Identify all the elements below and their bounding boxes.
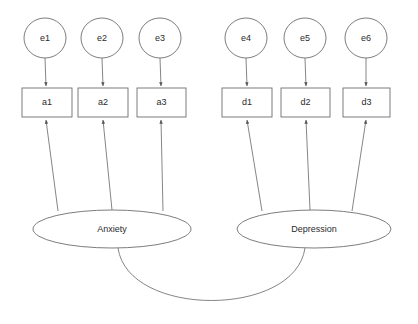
residual-label-e1: e1 xyxy=(40,33,50,43)
covariance-curve-anxiety-depression xyxy=(118,248,305,301)
residual-path-e4-to-d1 xyxy=(246,58,247,86)
loading-path-anxiety-to-a3 xyxy=(161,120,163,211)
indicator-label-d1: d1 xyxy=(242,97,252,107)
observed-indicator-d3[interactable]: d3 xyxy=(343,88,390,117)
indicator-label-a2: a2 xyxy=(98,97,108,107)
observed-indicator-a1[interactable]: a1 xyxy=(22,88,72,117)
loading-path-depression-to-d1 xyxy=(247,120,262,211)
sem-path-diagram: AnxietyDepression a1a2a3d1d2d3 e1e2e3e4e… xyxy=(0,0,418,324)
residual-path-e3-to-a3 xyxy=(160,58,161,86)
residual-path-e1-to-a1 xyxy=(45,58,46,86)
latent-variable-anxiety[interactable]: Anxiety xyxy=(33,210,191,248)
loading-paths-group xyxy=(46,120,366,211)
residual-label-e2: e2 xyxy=(97,33,107,43)
residual-label-e4: e4 xyxy=(241,33,251,43)
indicator-label-d3: d3 xyxy=(361,97,371,107)
diagram-canvas: AnxietyDepression a1a2a3d1d2d3 e1e2e3e4e… xyxy=(0,0,418,324)
residual-label-e5: e5 xyxy=(300,33,310,43)
loading-path-anxiety-to-a2 xyxy=(103,120,112,210)
residual-label-e6: e6 xyxy=(361,33,371,43)
observed-indicator-a2[interactable]: a2 xyxy=(78,88,128,117)
residual-paths-group xyxy=(45,58,366,86)
residual-term-e6[interactable]: e6 xyxy=(345,18,387,58)
latent-label-depression: Depression xyxy=(291,224,337,234)
observed-indicator-d1[interactable]: d1 xyxy=(222,88,272,117)
indicator-label-a3: a3 xyxy=(156,97,166,107)
residual-terms-group: e1e2e3e4e5e6 xyxy=(24,18,387,58)
residual-term-e2[interactable]: e2 xyxy=(81,18,123,58)
residual-term-e3[interactable]: e3 xyxy=(139,18,181,58)
latent-label-anxiety: Anxiety xyxy=(97,224,127,234)
indicator-label-a1: a1 xyxy=(42,97,52,107)
residual-term-e4[interactable]: e4 xyxy=(225,18,267,58)
residual-term-e1[interactable]: e1 xyxy=(24,18,66,58)
loading-path-depression-to-d2 xyxy=(306,120,310,210)
indicator-label-d2: d2 xyxy=(300,97,310,107)
loading-path-depression-to-d3 xyxy=(352,120,366,211)
residual-path-e5-to-d2 xyxy=(305,58,306,86)
observed-indicator-a3[interactable]: a3 xyxy=(137,88,186,117)
latent-variable-depression[interactable]: Depression xyxy=(237,210,391,248)
latent-variables-group: AnxietyDepression xyxy=(33,210,391,248)
observed-indicator-d2[interactable]: d2 xyxy=(281,88,330,117)
residual-label-e3: e3 xyxy=(155,33,165,43)
covariance-path-group xyxy=(118,248,305,301)
observed-indicators-group: a1a2a3d1d2d3 xyxy=(22,88,390,117)
residual-term-e5[interactable]: e5 xyxy=(284,18,326,58)
loading-path-anxiety-to-a1 xyxy=(46,120,58,211)
residual-path-e2-to-a2 xyxy=(102,58,103,86)
